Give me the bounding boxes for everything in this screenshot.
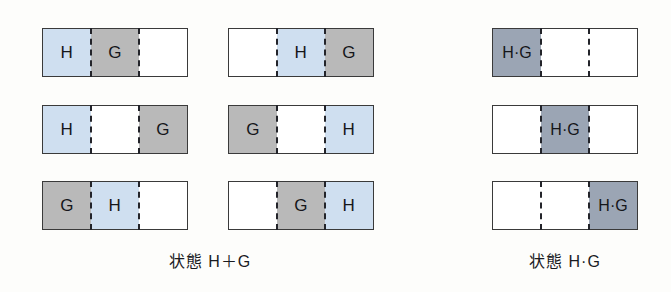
diagram-canvas: H G H G G H (0, 0, 671, 292)
cell-label: H (109, 196, 122, 216)
cell-1: H·G (493, 29, 541, 76)
cell-2: H (91, 182, 139, 229)
state-hdotg-row2-box: H·G (492, 105, 638, 154)
cell-1: G (229, 106, 277, 153)
cell-3: H·G (589, 182, 637, 229)
cell-1: H (43, 106, 91, 153)
cell-label: H·G (550, 121, 579, 139)
state-hplusg-col2-row1-box: H G (228, 28, 374, 77)
cell-label: G (60, 196, 74, 216)
cell-2: G (277, 182, 325, 229)
cell-3: G (139, 106, 187, 153)
cell-label: H·G (598, 197, 627, 215)
state-hplusg-col2-row3-box: G H (228, 181, 374, 230)
cell-1 (229, 182, 277, 229)
cell-label: G (108, 43, 122, 63)
state-hplusg-col1-row1-box: H G (42, 28, 188, 77)
cell-1: G (43, 182, 91, 229)
cell-2 (541, 29, 589, 76)
cell-1 (229, 29, 277, 76)
cell-3 (589, 29, 637, 76)
cell-2 (541, 182, 589, 229)
state-hplusg-col2-row2-box: G H (228, 105, 374, 154)
cell-label: G (342, 43, 356, 63)
cell-3: H (325, 182, 373, 229)
cell-label: G (294, 196, 308, 216)
cell-1: H (43, 29, 91, 76)
cell-3 (139, 182, 187, 229)
cell-2: H (277, 29, 325, 76)
cell-2 (277, 106, 325, 153)
caption-state-h-dot-g: 状態 H·G (465, 248, 665, 272)
state-hdotg-row3-box: H·G (492, 181, 638, 230)
cell-1 (493, 182, 541, 229)
cell-label: H·G (502, 44, 531, 62)
cell-2: H·G (541, 106, 589, 153)
caption-state-h-plus-g: 状態 H＋G (110, 248, 310, 272)
cell-label: H (61, 120, 74, 140)
cell-label: G (156, 120, 170, 140)
cell-3 (139, 29, 187, 76)
cell-3: G (325, 29, 373, 76)
cell-label: H (343, 120, 356, 140)
cell-label: H (61, 43, 74, 63)
cell-3: H (325, 106, 373, 153)
cell-2: G (91, 29, 139, 76)
cell-label: H (295, 43, 308, 63)
state-hdotg-row1-box: H·G (492, 28, 638, 77)
cell-1 (493, 106, 541, 153)
cell-label: G (246, 120, 260, 140)
state-hplusg-col1-row3-box: G H (42, 181, 188, 230)
state-hplusg-col1-row2-box: H G (42, 105, 188, 154)
cell-label: H (343, 196, 356, 216)
cell-3 (589, 106, 637, 153)
cell-2 (91, 106, 139, 153)
